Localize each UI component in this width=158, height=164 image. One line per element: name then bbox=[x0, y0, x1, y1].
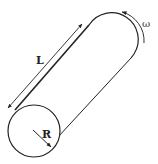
radius-label: R bbox=[42, 128, 52, 141]
cylinder-top-edge bbox=[15, 25, 89, 110]
cylinder-back-cap bbox=[89, 13, 138, 58]
omega-label: ω bbox=[142, 18, 150, 29]
cylinder-diagram: L R ω bbox=[0, 0, 158, 164]
length-label: L bbox=[36, 54, 44, 67]
cylinder-bottom-edge bbox=[58, 58, 131, 137]
length-dimension-arrow bbox=[8, 24, 82, 108]
